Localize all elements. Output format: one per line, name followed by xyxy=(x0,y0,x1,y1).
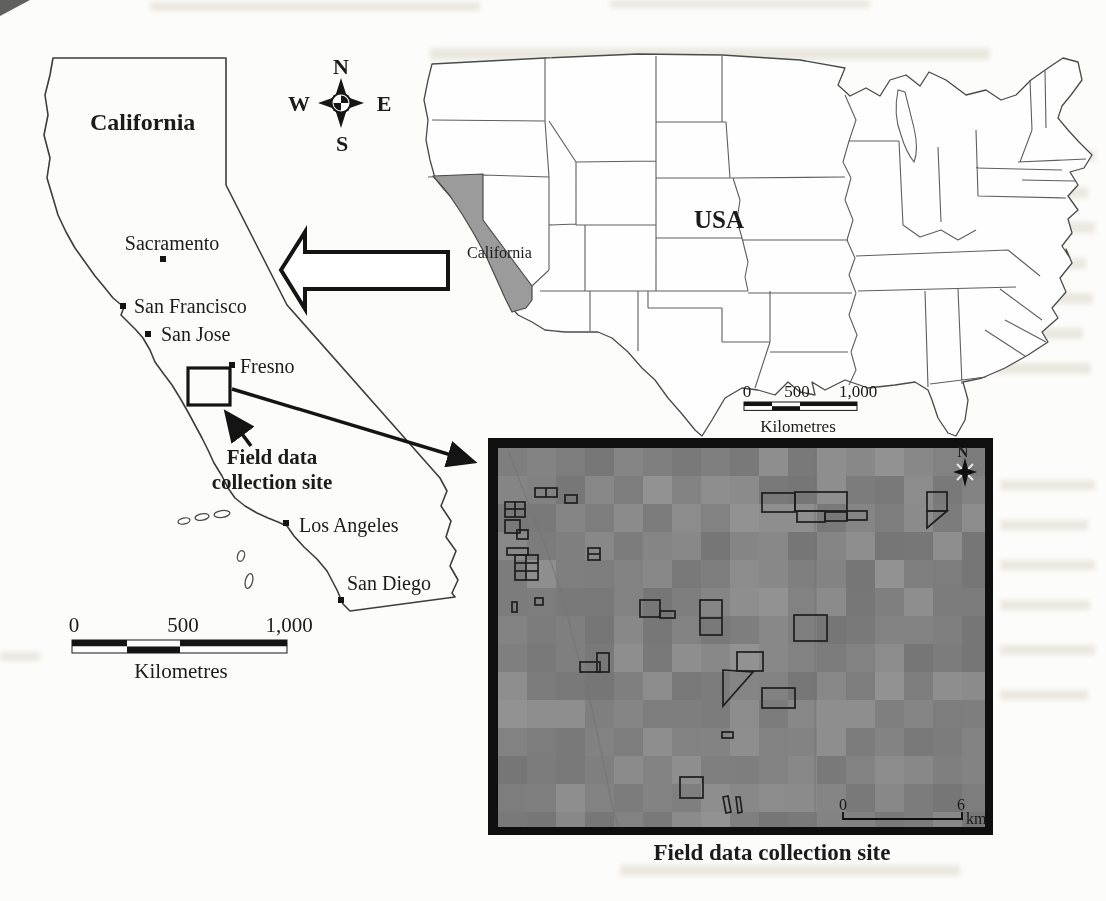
field-patch xyxy=(556,504,585,532)
field-patch xyxy=(585,504,614,532)
field-patch xyxy=(672,812,701,840)
field-patch xyxy=(498,784,527,812)
field-patch xyxy=(614,644,643,672)
field-patch xyxy=(788,728,817,756)
inset-north-label: N xyxy=(958,444,969,460)
field-patch xyxy=(556,560,585,588)
field-patch xyxy=(759,812,788,840)
field-patch xyxy=(817,812,846,840)
field-patch xyxy=(817,616,846,644)
study-area-box xyxy=(188,368,230,405)
field-patch xyxy=(585,756,614,784)
field-patch xyxy=(904,616,933,644)
ca-scale-bar: 0 500 1,000 Kilometres xyxy=(69,613,313,683)
field-patch xyxy=(701,532,730,560)
field-patch xyxy=(759,504,788,532)
field-patch xyxy=(730,504,759,532)
field-patch xyxy=(730,448,759,476)
field-patch xyxy=(846,476,875,504)
field-patch xyxy=(788,756,817,784)
figure-canvas: N S W E California USA 0 500 1,000 Kilom… xyxy=(0,0,1106,901)
field-patch xyxy=(759,784,788,812)
field-patch xyxy=(730,728,759,756)
field-patch xyxy=(585,616,614,644)
field-patch xyxy=(875,588,904,616)
field-patch xyxy=(933,644,962,672)
field-patch xyxy=(875,504,904,532)
field-patch xyxy=(556,476,585,504)
field-patch xyxy=(875,476,904,504)
field-patch xyxy=(875,672,904,700)
field-patch xyxy=(672,448,701,476)
field-patch xyxy=(730,476,759,504)
field-patch xyxy=(498,616,527,644)
ca-scale-tick-500: 500 xyxy=(167,613,199,637)
field-patch xyxy=(730,700,759,728)
field-patch xyxy=(730,560,759,588)
usa-to-california-arrow xyxy=(281,232,448,309)
field-patch xyxy=(701,504,730,532)
scale-segment xyxy=(772,406,800,410)
field-patch xyxy=(556,532,585,560)
field-patch xyxy=(498,728,527,756)
field-patch xyxy=(788,588,817,616)
field-patch xyxy=(527,728,556,756)
field-patch xyxy=(643,728,672,756)
field-patch xyxy=(585,448,614,476)
field-patch xyxy=(759,448,788,476)
field-patch xyxy=(933,672,962,700)
field-patch xyxy=(846,728,875,756)
field-patch xyxy=(614,784,643,812)
field-patch xyxy=(933,700,962,728)
compass-rose: N S W E xyxy=(288,54,391,156)
inset-scale-unit: km xyxy=(966,810,987,827)
field-patch xyxy=(846,448,875,476)
city-label-fresno: Fresno xyxy=(240,355,294,377)
field-patch xyxy=(817,448,846,476)
city-label-san-jose: San Jose xyxy=(161,323,231,345)
city-dot-los-angeles xyxy=(283,520,289,526)
field-patch xyxy=(875,700,904,728)
site-label-arrow xyxy=(228,415,251,446)
field-patch xyxy=(759,560,788,588)
field-patch xyxy=(730,616,759,644)
field-patch xyxy=(933,560,962,588)
field-patch xyxy=(788,812,817,840)
california-title: California xyxy=(90,109,195,135)
city-label-san-diego: San Diego xyxy=(347,572,431,595)
field-patch xyxy=(875,784,904,812)
scale-segment xyxy=(180,640,287,647)
field-patch xyxy=(904,700,933,728)
field-patch xyxy=(759,672,788,700)
field-patch xyxy=(875,448,904,476)
field-patch xyxy=(904,476,933,504)
field-patch xyxy=(904,504,933,532)
field-patch xyxy=(643,448,672,476)
field-patch xyxy=(817,728,846,756)
field-patch xyxy=(846,560,875,588)
field-patch xyxy=(701,448,730,476)
field-patch xyxy=(846,700,875,728)
field-patch xyxy=(672,588,701,616)
field-patch xyxy=(585,476,614,504)
usa-scale-tick-0: 0 xyxy=(743,382,752,401)
field-patch xyxy=(672,532,701,560)
field-patch xyxy=(730,644,759,672)
field-patch xyxy=(817,756,846,784)
field-patch xyxy=(643,532,672,560)
site-label-line2: collection site xyxy=(212,470,333,494)
field-patch xyxy=(846,756,875,784)
compass-label-e: E xyxy=(377,91,392,116)
city-dot-san-diego xyxy=(338,597,344,603)
field-patch xyxy=(846,588,875,616)
compass-label-s: S xyxy=(336,131,348,156)
field-patch xyxy=(788,672,817,700)
field-patch xyxy=(556,784,585,812)
field-patch xyxy=(614,700,643,728)
field-patch xyxy=(672,728,701,756)
field-patch xyxy=(730,812,759,840)
field-patch xyxy=(527,644,556,672)
field-patch xyxy=(498,644,527,672)
field-patch xyxy=(585,588,614,616)
field-patch xyxy=(614,756,643,784)
